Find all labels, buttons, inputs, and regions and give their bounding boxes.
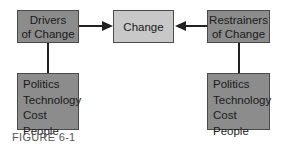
drivers-factor-item: Technology [23, 93, 78, 109]
restrainers-label-line1: Restrainers [209, 13, 268, 27]
drivers-factor-item: Politics [23, 77, 78, 93]
restrainers-of-change-box: Restrainers of Change [207, 10, 270, 43]
drivers-to-change-connector [79, 25, 103, 27]
drivers-label-line2: of Change [21, 27, 74, 41]
restrainers-factors-box: Politics Technology Cost People [207, 73, 270, 130]
change-label: Change [123, 20, 163, 34]
restrainers-factor-item: Technology [213, 93, 269, 109]
drivers-of-change-box: Drivers of Change [17, 10, 79, 43]
restrainers-factor-item: People [213, 124, 269, 140]
arrow-right-icon [102, 21, 113, 31]
restrainers-to-change-connector [185, 25, 207, 27]
drivers-factors-box: Politics Technology Cost People [17, 73, 79, 130]
restrainers-label-line2: of Change [212, 27, 265, 41]
drivers-label-line1: Drivers [30, 13, 66, 27]
restrainers-factor-item: Politics [213, 77, 269, 93]
change-box: Change [113, 10, 174, 43]
restrainers-factor-item: Cost [213, 108, 269, 124]
restrainers-vertical-connector [238, 43, 240, 73]
drivers-vertical-connector [47, 43, 49, 73]
figure-caption: FIGURE 6-1 [12, 131, 76, 143]
drivers-factor-item: Cost [23, 108, 78, 124]
